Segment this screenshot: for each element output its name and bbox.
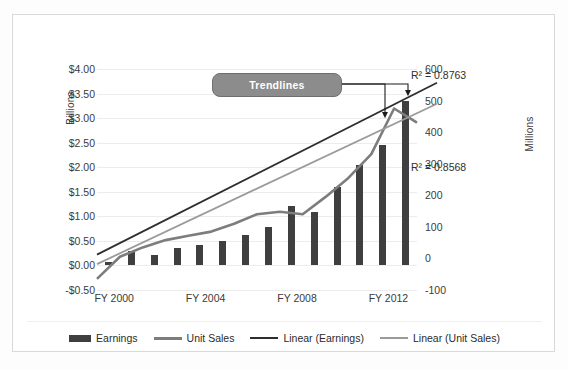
- legend-item-label: Earnings: [96, 332, 137, 344]
- legend-item[interactable]: Unit Sales: [154, 332, 235, 344]
- legend-item-label: Linear (Earnings): [283, 332, 364, 344]
- r2-label-unit-sales: R² = 0.8568: [411, 161, 466, 173]
- bar-swatch-icon: [69, 335, 91, 342]
- thin-dark-line-swatch-icon: [250, 337, 278, 339]
- chart-frame: Billions Millions $4.00$3.50$3.00$2.50$2…: [12, 14, 555, 352]
- r2-label-earnings: R² = 0.8763: [411, 69, 466, 81]
- chart-legend: EarningsUnit SalesLinear (Earnings)Linea…: [13, 327, 556, 349]
- legend-item[interactable]: Linear (Earnings): [250, 332, 364, 344]
- legend-divider: [27, 321, 542, 322]
- chart-screenshot: Billions Millions $4.00$3.50$3.00$2.50$2…: [0, 0, 568, 370]
- legend-item[interactable]: Linear (Unit Sales): [380, 332, 500, 344]
- unit-sales-line: [97, 109, 417, 279]
- trendlines-callout[interactable]: Trendlines: [212, 73, 342, 97]
- series-overlay: [13, 15, 556, 353]
- linear-unit-sales-trendline: [97, 104, 437, 264]
- legend-item-label: Linear (Unit Sales): [413, 332, 500, 344]
- thick-line-swatch-icon: [154, 337, 182, 340]
- legend-item[interactable]: Earnings: [69, 332, 137, 344]
- linear-earnings-trendline: [97, 83, 437, 255]
- trendlines-callout-label: Trendlines: [249, 79, 305, 91]
- legend-item-label: Unit Sales: [187, 332, 235, 344]
- thin-gray-line-swatch-icon: [380, 337, 408, 339]
